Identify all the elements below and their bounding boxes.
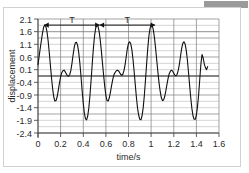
y-tick-label: 0.1 (19, 65, 32, 75)
y-tick-label: -1.4 (16, 103, 32, 113)
y-tick-label: 0.6 (19, 53, 32, 63)
x-tick-label: 0.6 (100, 139, 113, 149)
x-tick-label: 1.6 (213, 139, 226, 149)
y-tick-labels: 2.1 1.6 1.1 0.6 0.1 -0.4 -0.9 -1.4 -1.9 … (16, 15, 32, 139)
y-tick-label: 2.1 (19, 15, 32, 25)
x-tick-label: 1.2 (168, 139, 181, 149)
period-label-2: T (125, 15, 131, 25)
x-tick-label: 0.2 (54, 139, 67, 149)
x-tick-labels: 0 0.2 0.4 0.6 0.8 1 1.2 1.4 1.6 (35, 139, 225, 149)
displacement-time-chart: 2.1 1.6 1.1 0.6 0.1 -0.4 -0.9 -1.4 -1.9 … (4, 8, 240, 166)
x-tick-label: 0 (35, 139, 40, 149)
x-tick-label: 1.4 (190, 139, 203, 149)
y-tick-label: -2.4 (16, 129, 32, 139)
x-axis-title: time/s (116, 152, 141, 162)
y-axis-title: displacement (7, 49, 17, 103)
chart-figure-frame: 2.1 1.6 1.1 0.6 0.1 -0.4 -0.9 -1.4 -1.9 … (3, 7, 241, 167)
screenshot-root: 2.1 1.6 1.1 0.6 0.1 -0.4 -0.9 -1.4 -1.9 … (0, 0, 249, 173)
y-tick-label: -1.9 (16, 116, 32, 126)
x-tick-marks (38, 133, 219, 137)
x-tick-label: 0.4 (77, 139, 90, 149)
period-label-1: T (69, 15, 75, 25)
y-tick-label: -0.9 (16, 91, 32, 101)
x-tick-label: 0.8 (122, 139, 135, 149)
y-tick-label: 1.1 (19, 40, 32, 50)
x-tick-label: 1 (149, 139, 154, 149)
y-tick-label: 1.6 (19, 27, 32, 37)
y-tick-marks (34, 19, 38, 133)
y-tick-label: -0.4 (16, 78, 32, 88)
